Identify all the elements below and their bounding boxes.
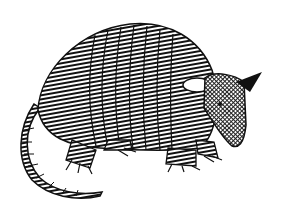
illustration-canvas	[0, 0, 284, 213]
head	[204, 72, 262, 147]
armadillo-illustration	[0, 0, 284, 213]
